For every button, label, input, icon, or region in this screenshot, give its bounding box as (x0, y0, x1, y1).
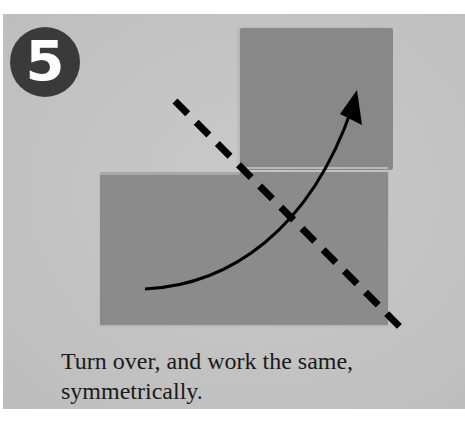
valley-fold-dashed-line (175, 101, 402, 329)
instruction-line-1: Turn over, and work the same, (61, 346, 461, 376)
fold-direction-arrow (145, 108, 352, 289)
instruction-line-2: symmetrically. (61, 376, 461, 406)
arrowhead-icon (340, 90, 362, 125)
instruction-caption: Turn over, and work the same, symmetrica… (61, 346, 461, 406)
